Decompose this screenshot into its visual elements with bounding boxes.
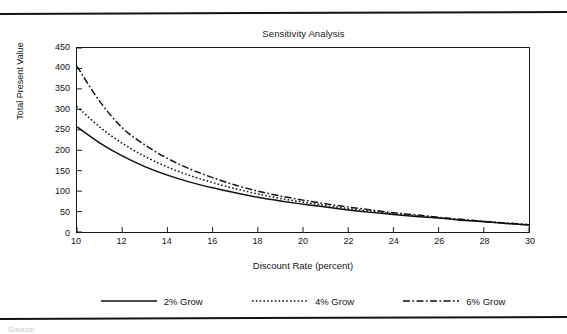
legend-item[interactable]: 4% Grow [252, 296, 354, 307]
x-axis-tick-label: 22 [334, 237, 362, 246]
x-axis-tick-label: 14 [153, 237, 181, 246]
legend-label: 6% Grow [466, 296, 505, 307]
plot-area [76, 47, 530, 233]
x-axis-tick-label: 10 [62, 237, 90, 246]
x-axis-tick-label: 24 [380, 237, 408, 246]
figure-sensitivity-analysis: Sensitivity Analysis Total Present Value… [0, 14, 567, 316]
chart-title: Sensitivity Analysis [76, 28, 531, 39]
x-axis-tick-label: 30 [516, 237, 544, 246]
y-axis-tick-label: 350 [40, 84, 70, 93]
legend-label: 2% Grow [164, 296, 203, 307]
y-axis-title: Total Present Value [15, 17, 25, 145]
y-axis-tick-label: 300 [40, 105, 70, 114]
y-axis-tick-labels: 050100150200250300350400450 [38, 47, 70, 233]
x-axis-tick-label: 16 [198, 237, 226, 246]
plot-svg [77, 48, 529, 232]
x-axis-tick-label: 12 [107, 237, 135, 246]
x-axis-tick-labels: 1012141618202224262830 [76, 237, 530, 251]
x-axis-tick-marks [77, 227, 529, 232]
y-axis-tick-label: 150 [40, 167, 70, 176]
x-axis-tick-label: 28 [471, 237, 499, 246]
page-rule-bottom [0, 316, 567, 320]
y-axis-tick-label: 400 [40, 63, 70, 72]
x-axis-tick-label: 20 [289, 237, 317, 246]
source-caption: Source: [8, 325, 36, 334]
series-line [77, 127, 529, 225]
legend-item[interactable]: 2% Grow [101, 296, 203, 307]
solid-line-swatch [101, 296, 157, 306]
y-axis-tick-marks [77, 48, 82, 232]
y-axis-tick-label: 250 [40, 125, 70, 134]
dotted-line-swatch [252, 296, 308, 306]
x-axis-tick-label: 26 [425, 237, 453, 246]
series-lines [77, 66, 529, 225]
y-axis-tick-label: 50 [40, 208, 70, 217]
dash-dot-line-swatch [403, 296, 459, 306]
series-line [77, 106, 529, 225]
y-axis-tick-label: 100 [40, 187, 70, 196]
y-axis-tick-label: 450 [40, 43, 70, 52]
legend-label: 4% Grow [315, 296, 354, 307]
series-line [77, 66, 529, 224]
x-axis-tick-label: 18 [244, 237, 272, 246]
x-axis-title: Discount Rate (percent) [76, 260, 530, 271]
y-axis-tick-label: 200 [40, 146, 70, 155]
chart-legend: 2% Grow4% Grow6% Grow [76, 292, 530, 310]
legend-item[interactable]: 6% Grow [403, 296, 505, 307]
